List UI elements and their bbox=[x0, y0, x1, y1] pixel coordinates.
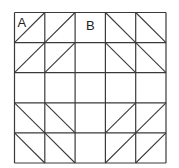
diagonal-line bbox=[136, 133, 166, 163]
diagonal-line bbox=[15, 43, 45, 73]
diagonal-line bbox=[136, 103, 166, 133]
diagonal-line bbox=[45, 133, 75, 163]
diagonal-line bbox=[15, 103, 45, 133]
grid-lines bbox=[15, 13, 167, 164]
grid-diagram: A B bbox=[0, 0, 179, 168]
diagonal-line bbox=[105, 133, 135, 163]
diagonal-line bbox=[45, 13, 75, 43]
diagonal-line bbox=[105, 103, 135, 133]
diagonal-line bbox=[105, 43, 135, 73]
cell-label-a: A bbox=[18, 15, 27, 30]
diagonal-line bbox=[45, 103, 75, 133]
diagonal-line bbox=[136, 13, 166, 43]
diagonal-line bbox=[136, 43, 166, 73]
diagonal-line bbox=[15, 133, 45, 163]
diagonal-line bbox=[45, 43, 75, 73]
diagonal-lines bbox=[15, 13, 167, 164]
cell-label-b: B bbox=[86, 18, 95, 33]
diagonal-line bbox=[105, 13, 135, 43]
